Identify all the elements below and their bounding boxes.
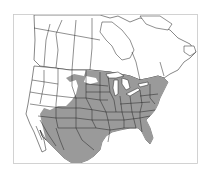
range-map bbox=[0, 0, 210, 169]
